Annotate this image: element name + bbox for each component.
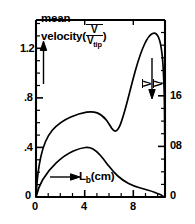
y2-tick-label-0: 0 bbox=[170, 190, 176, 201]
x-axis-title-units: (cm) bbox=[91, 170, 114, 182]
x-tick-label-0: 0 bbox=[32, 201, 38, 212]
y2-axis-title: VV bbox=[143, 79, 164, 88]
y-tick-label-0_8: .8 bbox=[24, 92, 33, 103]
x-axis-title-symbol: L bbox=[79, 170, 86, 182]
y-axis-title-paren-close: ) bbox=[103, 29, 107, 41]
x-tick-label-4: 4 bbox=[81, 201, 87, 212]
y-axis-fraction-numerator: V bbox=[86, 25, 103, 36]
y-tick-label-0_4: .4 bbox=[24, 142, 33, 153]
y-axis-title-fraction: VVtip bbox=[86, 25, 103, 48]
y-axis-title-line2: velocity bbox=[41, 29, 82, 41]
figure-container: mean velocity(VVtip) 1.2 .8 .4 0 16 08 0… bbox=[0, 0, 195, 224]
y-tick-label-1_2: 1.2 bbox=[20, 43, 34, 54]
y2-tick-label-08: 08 bbox=[170, 140, 182, 151]
y-axis-fraction-denominator: Vtip bbox=[86, 36, 103, 48]
y2-axis-fraction: VV bbox=[143, 79, 164, 88]
y-axis-title: mean velocity(VVtip) bbox=[41, 13, 106, 48]
right-arrow-icon bbox=[50, 174, 80, 180]
y2-axis-fraction-denominator: V bbox=[154, 79, 164, 88]
x-tick-label-8: 8 bbox=[130, 201, 136, 212]
y2-tick-label-16: 16 bbox=[170, 90, 182, 101]
y-tick-label-0: 0 bbox=[25, 190, 31, 201]
x-axis-title: Lb(cm) bbox=[79, 171, 114, 185]
